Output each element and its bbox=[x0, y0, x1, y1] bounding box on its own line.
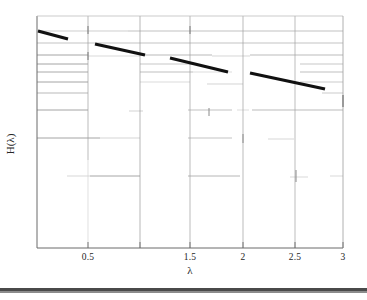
x-axis-ticks bbox=[88, 242, 343, 248]
x-tick-label-0: 0.5 bbox=[82, 252, 94, 262]
y-axis-title: H(λ) bbox=[4, 114, 16, 174]
x-tick-label-4: 3 bbox=[341, 252, 346, 262]
data-series-line bbox=[38, 31, 325, 89]
figure-container: 0.5 1.5 2 2.5 3 λ H(λ) bbox=[0, 0, 367, 300]
x-tick-label-1: 1.5 bbox=[184, 252, 196, 262]
data-segment-3 bbox=[170, 58, 228, 72]
page-edge-rule-shadow bbox=[0, 291, 367, 293]
x-axis-title: λ bbox=[187, 264, 192, 276]
data-segment-1 bbox=[38, 31, 68, 39]
data-segment-4 bbox=[250, 73, 325, 89]
x-tick-label-3: 2.5 bbox=[289, 252, 301, 262]
data-segment-2 bbox=[95, 44, 145, 55]
x-tick-label-2: 2 bbox=[241, 252, 246, 262]
